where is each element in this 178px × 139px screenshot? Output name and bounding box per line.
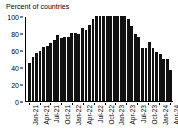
chart-title: Percent of countries — [6, 2, 69, 11]
x-axis-tick-label: Jul-22 — [97, 105, 104, 123]
plot-area — [25, 17, 173, 102]
x-axis-tick-mark — [29, 103, 30, 105]
x-axis-tick-label: Jul-21 — [53, 105, 60, 123]
x-axis-tick-mark — [94, 103, 95, 105]
bar — [60, 38, 63, 101]
x-axis-tick-label: Oct-22 — [108, 105, 115, 125]
bar — [134, 34, 137, 101]
bar — [106, 16, 109, 101]
bar — [81, 28, 84, 101]
bar — [32, 57, 35, 101]
x-axis-tick-label: Jan-24 — [162, 105, 169, 125]
x-axis-tick-mark — [83, 103, 84, 105]
y-axis-tick-mark — [20, 102, 23, 103]
x-axis-tick-label: Oct-23 — [151, 105, 158, 125]
x-axis-tick-mark — [115, 103, 116, 105]
x-axis-tick-mark — [50, 103, 51, 105]
bar — [28, 63, 31, 101]
x-axis: Jan-21Apr-21Jul-21Oct-21Jan-22Apr-22Jul-… — [25, 103, 173, 139]
bar — [92, 19, 95, 101]
bar — [67, 37, 70, 101]
y-axis-tick-mark — [20, 68, 23, 69]
x-axis-tick-mark — [137, 103, 138, 105]
bar — [49, 43, 52, 101]
bar — [113, 16, 116, 101]
bar — [39, 51, 42, 101]
bar — [46, 46, 49, 101]
bar — [162, 59, 165, 101]
bar — [63, 37, 66, 101]
bar — [42, 47, 45, 101]
y-axis-tick-mark — [20, 34, 23, 35]
bar — [155, 52, 158, 101]
bar — [123, 16, 126, 101]
bar — [70, 33, 73, 101]
bar — [74, 33, 77, 101]
y-axis: 020406080100 — [0, 17, 23, 102]
x-axis-tick-label: Apr-24 — [173, 105, 178, 125]
bar — [141, 48, 144, 101]
bar — [53, 40, 56, 101]
x-axis-tick-label: Apr-22 — [86, 105, 93, 125]
bar — [152, 48, 155, 101]
bar — [109, 16, 112, 101]
bar — [127, 19, 130, 101]
bar — [145, 48, 148, 101]
bar — [77, 34, 80, 101]
x-axis-tick-mark — [40, 103, 41, 105]
x-axis-tick-label: Jan-23 — [118, 105, 125, 125]
bar — [116, 16, 119, 101]
x-axis-tick-label: Oct-21 — [64, 105, 71, 125]
x-axis-tick-label: Apr-21 — [43, 105, 50, 125]
bar-series — [26, 17, 173, 101]
x-axis-tick-label: Apr-23 — [129, 105, 136, 125]
bar — [130, 26, 133, 101]
bar — [99, 16, 102, 101]
y-axis-tick-label: 40 — [11, 65, 19, 72]
bar — [169, 70, 172, 101]
x-axis-tick-mark — [159, 103, 160, 105]
y-axis-tick-mark — [20, 51, 23, 52]
x-axis-tick-mark — [126, 103, 127, 105]
x-axis-tick-label: Jan-21 — [32, 105, 39, 125]
bar — [35, 53, 38, 101]
y-axis-tick-label: 0 — [15, 99, 19, 106]
x-axis-tick-mark — [72, 103, 73, 105]
x-axis-tick-mark — [148, 103, 149, 105]
bar — [85, 30, 88, 101]
bar — [148, 42, 151, 101]
bar — [95, 16, 98, 101]
bar — [166, 59, 169, 101]
bar — [120, 16, 123, 101]
y-axis-tick-mark — [20, 85, 23, 86]
x-axis-tick-label: Jul-23 — [140, 105, 147, 123]
bar — [88, 25, 91, 102]
bar — [56, 35, 59, 101]
bar — [137, 37, 140, 101]
y-axis-tick-label: 20 — [11, 82, 19, 89]
y-axis-tick-label: 100 — [7, 14, 19, 21]
x-axis-tick-label: Jan-22 — [75, 105, 82, 125]
y-axis-tick-mark — [20, 17, 23, 18]
x-axis-tick-mark — [105, 103, 106, 105]
bar — [159, 54, 162, 101]
chart-figure: Percent of countries 020406080100 Jan-21… — [0, 0, 178, 139]
y-axis-tick-label: 60 — [11, 48, 19, 55]
x-axis-tick-mark — [170, 103, 171, 105]
x-axis-tick-mark — [61, 103, 62, 105]
bar — [102, 16, 105, 101]
y-axis-tick-label: 80 — [11, 31, 19, 38]
